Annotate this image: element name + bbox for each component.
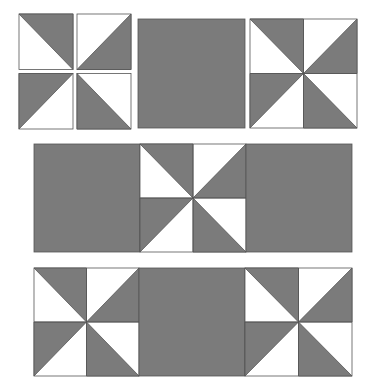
pinwheel-block [250, 19, 357, 128]
pinwheel-block [140, 144, 246, 252]
pinwheel-block [245, 268, 352, 376]
pinwheel-block [34, 268, 139, 376]
solid-block [246, 144, 352, 252]
row-3-pinwheel-solid-pinwheel [34, 268, 352, 376]
four-patch-separated-block [19, 14, 131, 129]
solid-block [139, 268, 245, 376]
row-1-units [19, 14, 357, 129]
row-2-solid-pinwheel-solid [34, 144, 352, 252]
solid-block [138, 19, 245, 128]
solid-block [34, 144, 140, 252]
quilt-diagram [0, 0, 369, 380]
